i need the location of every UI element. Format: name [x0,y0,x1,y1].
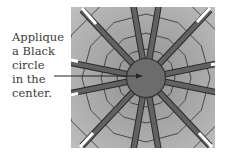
quilt-block-diagram [0,0,228,155]
quilt-square [60,0,228,155]
center-circle [127,59,166,98]
